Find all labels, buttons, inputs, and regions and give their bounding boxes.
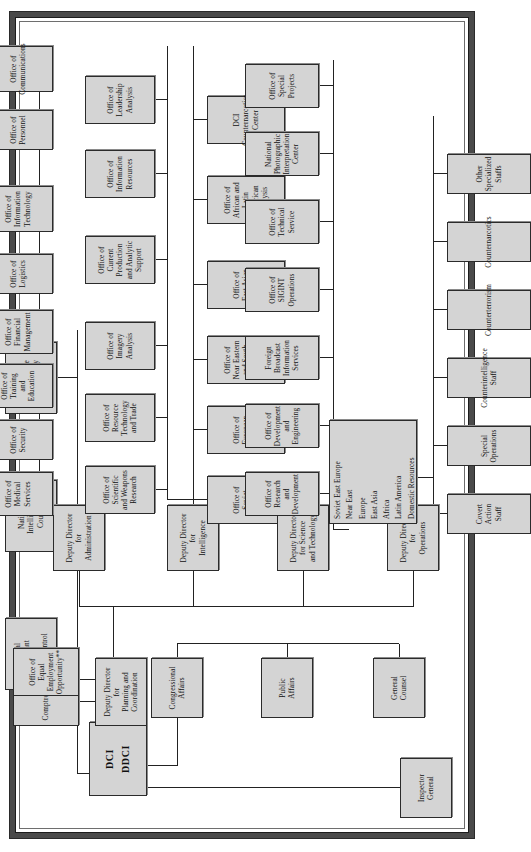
box-office-logistics[interactable]: Office of Logistics <box>0 254 53 294</box>
connector-spine-to-science-technology <box>303 571 304 607</box>
connector-spine-up-administration <box>79 606 113 607</box>
connector-spine-to-planning <box>113 607 114 665</box>
connector-ops-drop-2 <box>433 445 447 446</box>
connector-st-drop-4 <box>319 289 334 290</box>
box-office-special-projects[interactable]: Office ofSpecial Projects <box>245 64 319 108</box>
connector-ops-regions <box>417 477 434 478</box>
connector-st-riser <box>333 529 349 530</box>
connector-intelligence-bus-row1 <box>167 46 168 500</box>
box-office-scientific-weapons-research[interactable]: Office of Scientificand Weapons Research <box>85 466 155 514</box>
connector-ops-drop-6 <box>433 173 447 174</box>
box-special-operations[interactable]: Special Operations <box>447 426 531 466</box>
region-item-4: Africa <box>382 425 391 519</box>
box-office-information-technology[interactable]: Office ofInformation Technology <box>0 186 53 232</box>
box-office-development-engineering[interactable]: Office of Developmentand Engineering <box>245 404 319 448</box>
box-operations-regional-divisions[interactable]: Soviet East Europe Near East Europe East… <box>329 420 417 524</box>
connector-intel-drop-5 <box>193 199 207 200</box>
box-office-imagery-analysis[interactable]: Office ofImagery Analysis <box>85 322 155 370</box>
box-national-photographic-interpretation-center[interactable]: National PhotographicInterpretation Cent… <box>245 132 319 176</box>
box-deputy-director-administration[interactable]: Deputy DirectorforAdministration <box>53 505 105 571</box>
box-dci-ddci[interactable]: DCI DDCI <box>89 722 147 796</box>
connector-st-drop-5 <box>319 221 334 222</box>
connector-planning-comptroller <box>79 701 95 702</box>
connector-leftstaff-general-counsel <box>399 644 400 658</box>
box-inspector-general[interactable]: InspectorGeneral <box>400 758 452 818</box>
connector-spine-to-operations <box>413 571 414 607</box>
region-item-0: Soviet East Europe <box>333 425 342 519</box>
connector-intelligence-bus <box>193 46 194 540</box>
connector-ops-drop-3 <box>433 377 447 378</box>
box-office-current-production-analytic-support[interactable]: Office of Current Productionand Analytic… <box>85 236 155 284</box>
connector-ops-drop-4 <box>433 309 447 310</box>
connector-dci-inspector-general <box>147 787 400 788</box>
connector-topstaff-ic-staff <box>57 377 78 378</box>
connector-operations-bus <box>433 116 434 530</box>
box-office-resource-technology-trade[interactable]: Office of ResourceTechnology and Trade <box>85 394 155 442</box>
connector-intel1-drop-1 <box>155 489 168 490</box>
connector-intel1-drop-2 <box>155 417 168 418</box>
connector-intel-drop-6 <box>193 119 207 120</box>
connector-intel-drop-4 <box>193 284 207 285</box>
connector-intel1-drop-6 <box>155 99 168 100</box>
box-covert-action-staff[interactable]: Covert Action Staff <box>447 494 531 534</box>
connector-main-spine <box>113 606 413 607</box>
chart-frame: DCI DDCI InspectorGeneral GeneralCounsel… <box>10 12 474 838</box>
org-chart-canvas: DCI DDCI InspectorGeneral GeneralCounsel… <box>17 20 467 830</box>
box-office-security[interactable]: Office of Security <box>0 420 53 460</box>
box-office-sigint-operations[interactable]: Office ofSIGINT Operations <box>245 268 319 312</box>
box-office-training-education[interactable]: Office of Trainingand Education <box>0 364 53 408</box>
box-office-medical-services[interactable]: Office ofMedical Services <box>0 472 53 516</box>
box-public-affairs[interactable]: PublicAffairs <box>261 658 313 718</box>
dci-label: DCI <box>104 725 117 793</box>
connector-intel-drop-2 <box>193 429 207 430</box>
box-foreign-broadcast-information-services[interactable]: Foreign BroadcastInformation Services <box>245 336 319 380</box>
connector-leftstaff-public-affairs <box>287 644 288 658</box>
connector-st-drop-7 <box>319 85 334 86</box>
region-item-2: Europe <box>358 425 367 519</box>
region-item-5: Latin America <box>394 425 403 519</box>
box-office-technical-service[interactable]: Office ofTechnical Service <box>245 200 319 244</box>
connector-planning-eeo <box>79 679 95 680</box>
region-item-1: Near East <box>345 425 354 519</box>
box-congressional-affairs[interactable]: CongressionalAffairs <box>151 658 203 718</box>
connector-spine-to-administration <box>79 571 80 607</box>
box-office-information-resources[interactable]: Office ofInformation Resources <box>85 150 155 198</box>
connector-leftstaff-congressional <box>177 644 178 658</box>
box-office-research-development[interactable]: Office of Researchand Development <box>245 472 319 516</box>
box-deputy-director-planning-coordination[interactable]: Deputy DirectorforPlanning andCoordinati… <box>95 658 147 726</box>
region-item-6: Domestic Resources <box>407 425 416 519</box>
connector-intel1-drop-5 <box>155 173 168 174</box>
chart-frame-inner: DCI DDCI InspectorGeneral GeneralCounsel… <box>19 21 465 829</box>
connector-intel1-drop-4 <box>155 259 168 260</box>
box-office-personnel[interactable]: Office of Personnel <box>0 110 53 150</box>
connector-st-drop-3 <box>319 357 334 358</box>
connector-leftstaff-spine <box>177 643 399 644</box>
connector-intel1-drop-3 <box>155 345 168 346</box>
box-general-counsel[interactable]: GeneralCounsel <box>373 658 425 718</box>
box-counterintelligence-staff[interactable]: Counterintelligence Staff <box>447 358 531 398</box>
connector-intel-drop-3 <box>193 359 207 360</box>
connector-spine-to-intelligence <box>193 571 194 607</box>
box-office-financial-management[interactable]: Office of FinancialManagement <box>0 310 53 354</box>
box-counternarcotics[interactable]: Counternarcotics <box>447 222 531 262</box>
box-office-equal-employment-opportunity[interactable]: Office of EqualEmployment Opportunity** <box>13 648 79 696</box>
connector-ops-drop-5 <box>433 241 447 242</box>
box-other-specialized-staffs[interactable]: Other Specialized Staffs <box>447 154 531 194</box>
box-office-leadership-analysis[interactable]: Office ofLeadership Analysis <box>85 76 155 124</box>
connector-intel-drop-1 <box>193 499 207 500</box>
connector-st-drop-6 <box>319 153 334 154</box>
box-counterterrorism[interactable]: Counterterrorism <box>447 290 531 330</box>
box-office-communications[interactable]: Office ofCommunications <box>0 46 53 92</box>
connector-dci-to-leftstaff <box>147 765 177 766</box>
region-item-3: East Asia <box>370 425 379 519</box>
ddci-label: DDCI <box>120 725 133 793</box>
connector-intel-riser-row1 <box>167 499 193 500</box>
